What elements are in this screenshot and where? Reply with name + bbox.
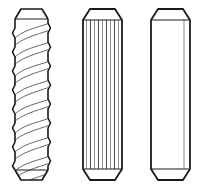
technical-drawing-canvas xyxy=(0,0,202,190)
spiral-grooved-pin xyxy=(13,9,51,190)
straight-fluted-pin xyxy=(83,9,122,180)
plain-dowel-pin xyxy=(151,9,190,180)
pin-types-figure xyxy=(0,0,202,190)
